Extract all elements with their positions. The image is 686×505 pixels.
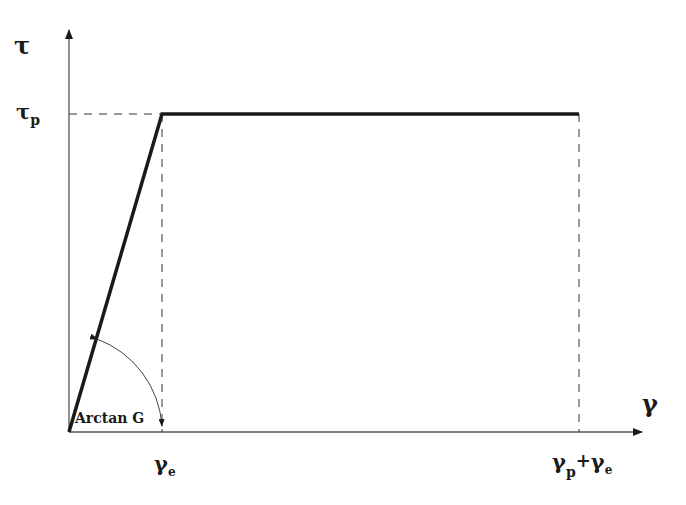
tau-p-label: τp (16, 99, 40, 128)
x-axis-label: γ (642, 389, 658, 418)
gamma-e-label: γe (154, 451, 176, 479)
diagram-canvas: τ τp γ Arctan G γe γp+γe (0, 0, 686, 505)
gamma-p-plus-e-label: γp+γe (552, 449, 613, 480)
arctan-g-label: Arctan G (74, 410, 144, 426)
y-axis-label: τ (14, 31, 30, 60)
stress-strain-curve (69, 114, 579, 432)
